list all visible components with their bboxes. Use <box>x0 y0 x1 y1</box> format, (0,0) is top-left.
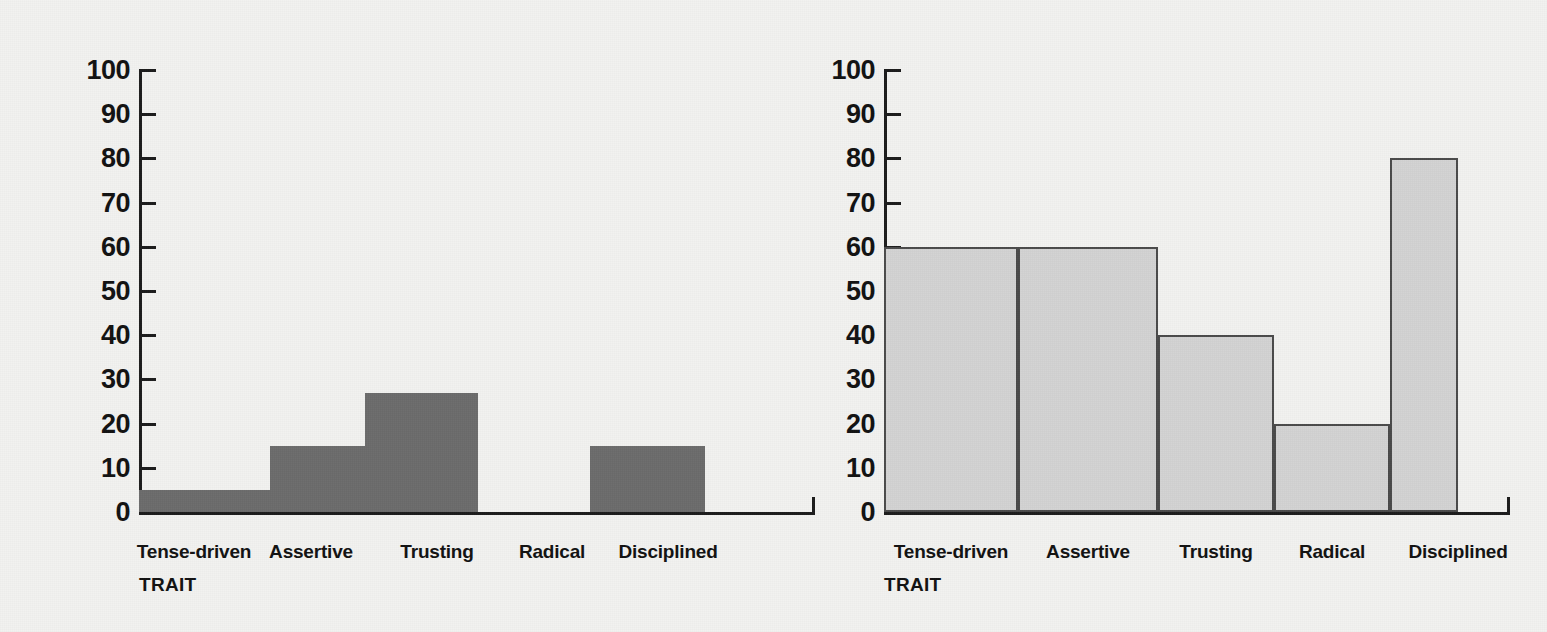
x-axis-category-label: Tense-driven <box>137 541 251 563</box>
y-axis-tick <box>884 113 901 116</box>
bar-assertive <box>270 446 365 512</box>
x-axis-category-label: Radical <box>519 541 585 563</box>
chart-panel-left: 0102030405060708090100Tense-drivenAssert… <box>0 0 820 632</box>
y-axis-tick <box>884 202 901 205</box>
y-axis-tick-label: 10 <box>820 454 875 481</box>
bar-tense-driven <box>884 247 1018 512</box>
y-axis-tick-label: 90 <box>820 101 875 128</box>
x-axis-title: TRAIT <box>884 574 941 596</box>
y-axis-tick-label: 80 <box>820 145 875 172</box>
x-axis-category-label: Tense-driven <box>894 541 1008 563</box>
x-axis-category-label: Radical <box>1299 541 1365 563</box>
bar-disciplined <box>1390 158 1458 512</box>
x-axis-end-tick <box>812 497 815 513</box>
y-axis-tick-label: 30 <box>0 366 130 393</box>
bar-trusting <box>365 393 478 512</box>
x-axis-title: TRAIT <box>139 574 196 596</box>
y-axis-tick-label: 10 <box>0 454 130 481</box>
x-axis-line <box>139 512 815 515</box>
y-axis-tick-label: 40 <box>820 322 875 349</box>
y-axis-tick-label: 70 <box>0 189 130 216</box>
x-axis-category-label: Assertive <box>1046 541 1130 563</box>
y-axis-tick-label: 50 <box>0 278 130 305</box>
y-axis-tick-label: 100 <box>0 57 130 84</box>
x-axis-category-label: Disciplined <box>1408 541 1507 563</box>
y-axis-tick-label: 50 <box>820 278 875 305</box>
y-axis-tick-label: 60 <box>0 233 130 260</box>
y-axis-tick <box>139 202 156 205</box>
y-axis-tick-label: 90 <box>0 101 130 128</box>
bar-tense-driven <box>139 490 270 512</box>
y-axis-tick-label: 100 <box>820 57 875 84</box>
y-axis-tick-label: 80 <box>0 145 130 172</box>
y-axis-tick <box>139 423 156 426</box>
y-axis-tick-label: 30 <box>820 366 875 393</box>
x-axis-category-label: Assertive <box>269 541 353 563</box>
y-axis-tick-label: 0 <box>820 499 875 526</box>
y-axis-tick-label: 20 <box>0 410 130 437</box>
y-axis-tick <box>139 69 156 72</box>
bar-assertive <box>1018 247 1158 512</box>
x-axis-category-label: Trusting <box>1179 541 1252 563</box>
y-axis-tick-label: 20 <box>820 410 875 437</box>
y-axis-tick-label: 70 <box>820 189 875 216</box>
y-axis-tick-label: 40 <box>0 322 130 349</box>
y-axis-tick <box>139 157 156 160</box>
y-axis-tick <box>139 378 156 381</box>
bar-radical <box>1274 424 1390 512</box>
x-axis-category-label: Disciplined <box>618 541 717 563</box>
y-axis-tick <box>139 467 156 470</box>
y-axis-tick-label: 0 <box>0 499 130 526</box>
charts-row: 0102030405060708090100Tense-drivenAssert… <box>0 0 1547 632</box>
y-axis-tick <box>884 69 901 72</box>
y-axis-tick <box>139 290 156 293</box>
x-axis-line <box>884 512 1510 515</box>
y-axis-tick <box>884 157 901 160</box>
y-axis-tick-label: 60 <box>820 233 875 260</box>
x-axis-category-label: Trusting <box>400 541 473 563</box>
x-axis-end-tick <box>1507 497 1510 513</box>
y-axis-tick <box>139 334 156 337</box>
y-axis-tick <box>139 113 156 116</box>
chart-panel-right: 0102030405060708090100Tense-drivenAssert… <box>820 0 1547 632</box>
y-axis-tick <box>139 246 156 249</box>
bar-disciplined <box>590 446 705 512</box>
bar-trusting <box>1158 335 1274 512</box>
